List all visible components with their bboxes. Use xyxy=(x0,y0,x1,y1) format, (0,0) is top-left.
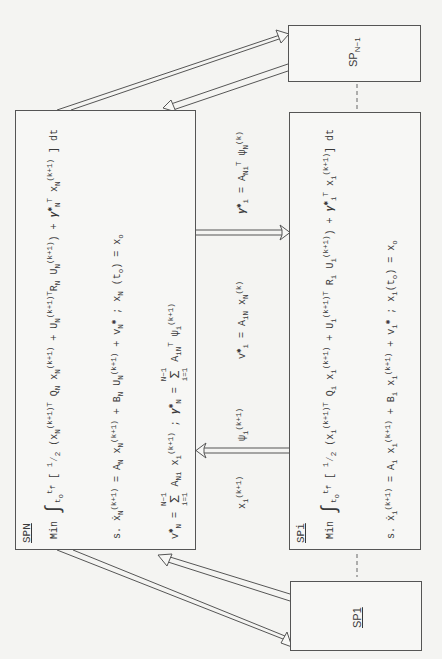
arrow-sp1-to-spn xyxy=(158,554,290,601)
label-to-spn-psi: ψi(k+1) xyxy=(236,408,251,441)
spn-objective: Min ∫totf [ 1⁄2 (xN(k+1)T QN xN(k+1) + U… xyxy=(44,129,65,539)
box-spn: SPN Min ∫totf [ 1⁄2 (xN(k+1)T QN xN(k+1)… xyxy=(15,110,196,550)
arrow-sp-n-minus-1-to-spn xyxy=(163,64,288,112)
label-to-spi-gamma: γ✱i = ANiT ψN(k) xyxy=(236,131,251,214)
spi-objective: Min ∫totf [ 1⁄2 (xi(k+1)T Qi xi(k+1) + U… xyxy=(320,129,341,539)
sp1-title: SP1 xyxy=(351,607,363,628)
box-sp-n-minus-1: SPN−1 xyxy=(288,25,421,82)
box-spi: SPi Min ∫totf [ 1⁄2 (xi(k+1)T Qi xi(k+1)… xyxy=(289,112,421,550)
spn-title: SPN xyxy=(21,523,33,543)
sp-n-minus-1-title: SPN−1 xyxy=(347,37,362,67)
label-to-spn-x: xi(k+1) xyxy=(236,476,251,509)
arrow-spn-to-spi xyxy=(196,225,290,240)
box-sp1: SP1 xyxy=(290,581,422,651)
spi-title: SPi xyxy=(295,523,307,543)
arrow-spn-to-sp-n-minus-1 xyxy=(57,30,289,110)
diagram-canvas: SPN Min ∫totf [ 1⁄2 (xN(k+1)T QN xN(k+1)… xyxy=(0,0,442,659)
arrow-spi-to-spn xyxy=(196,443,289,458)
spi-constraint: s. ẋi(k+1) = Ai xi(k+1) + Bi xi(k+1) + v… xyxy=(385,240,400,539)
label-to-spi: v✱i = AiN xN(k) xyxy=(236,281,251,359)
spn-constraint: s. ẋN(k+1) = AN xN(k+1) + BN UN(k+1) + v… xyxy=(111,234,126,539)
spn-coordination: v✱N = N−1Σi=1 ANi xi(k+1) ; γ✱N = N−1Σi=… xyxy=(161,303,189,539)
